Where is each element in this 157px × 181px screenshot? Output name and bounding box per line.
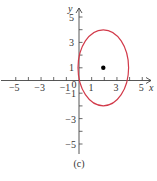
x-tick-label: −3 bbox=[34, 82, 45, 93]
x-tick-label: 1 bbox=[89, 82, 94, 93]
y-axis-label: y bbox=[67, 3, 73, 14]
center-point bbox=[101, 66, 105, 70]
y-tick-label: −1 bbox=[65, 88, 76, 99]
y-tick-label: −5 bbox=[65, 139, 76, 150]
x-axis-label: x bbox=[148, 82, 154, 93]
ellipse-plot: −5 −3 −1 0 1 3 5 5 3 1 −1 −3 −5 x y (c) bbox=[0, 0, 157, 181]
x-tick-label: −5 bbox=[9, 82, 20, 93]
y-tick-label: 3 bbox=[69, 37, 74, 48]
y-tick-label: 1 bbox=[69, 62, 74, 73]
x-tick-label: 5 bbox=[139, 82, 144, 93]
figure-caption: (c) bbox=[73, 158, 84, 170]
x-tick-label: 3 bbox=[114, 82, 119, 93]
y-tick-label: −3 bbox=[65, 114, 76, 125]
